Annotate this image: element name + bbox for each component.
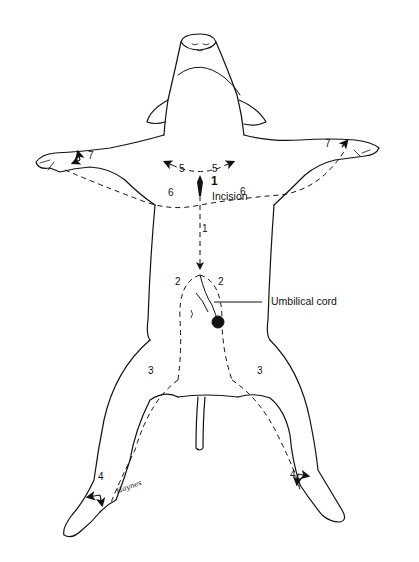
line-4-right-label: 4 (290, 470, 296, 480)
line-3-right-label: 3 (257, 366, 263, 376)
line-4-left-label: 4 (98, 472, 104, 482)
line-5-left-label: 5 (179, 164, 185, 174)
body-outline (36, 34, 379, 537)
umbilical-cord-label: Umbilical cord (271, 296, 337, 307)
piglet-dissection-diagram: 5 5 1 Incision 6 6 1 2 2 Umbilical cord … (0, 0, 419, 562)
line-7-left-label: 7 (88, 151, 94, 161)
incision-step-label: 1 (211, 175, 218, 187)
line-2-left-label: 2 (175, 277, 181, 287)
line-6-left-label: 6 (168, 188, 174, 198)
line-3-left-label: 3 (148, 366, 154, 376)
line-6-right-label: 6 (240, 187, 246, 197)
piglet-illustration (0, 0, 419, 562)
direction-arrows (73, 141, 347, 505)
umbilical-cord-drawing (191, 275, 262, 328)
line-5-right-label: 5 (212, 164, 218, 174)
line-1-label: 1 (202, 224, 208, 234)
line-7-right-label: 7 (325, 139, 331, 149)
incision-lines (65, 150, 345, 505)
line-2-right-label: 2 (218, 277, 224, 287)
